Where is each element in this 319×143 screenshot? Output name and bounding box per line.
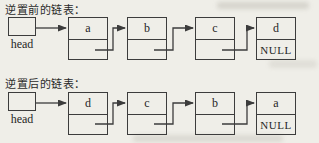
node-data-cell: c	[196, 18, 234, 40]
node-pointer-cell	[196, 115, 234, 134]
after-list-title: 逆置后的链表：	[5, 75, 86, 91]
node-before-2: b	[127, 17, 167, 60]
node-data-cell: d	[257, 18, 295, 40]
node-after-3: b	[195, 92, 235, 135]
node-after-1: d	[68, 92, 108, 135]
node-after-2: c	[127, 92, 167, 135]
head-label-after: head	[4, 112, 40, 127]
head-label-before: head	[4, 37, 40, 52]
before-list-title: 逆置前的链表：	[5, 1, 86, 17]
node-null-cell: NULL	[257, 115, 295, 134]
node-after-4: a NULL	[256, 92, 296, 135]
linked-list-reversal-diagram: 逆置前的链表： head a b c d NULL 逆置后的链表： head d…	[0, 0, 319, 143]
node-data-cell: a	[69, 18, 107, 40]
node-data-cell: b	[128, 18, 166, 40]
node-null-cell: NULL	[257, 40, 295, 59]
scan-artifact	[269, 60, 317, 68]
node-pointer-cell	[69, 115, 107, 134]
node-pointer-cell	[128, 115, 166, 134]
node-data-cell: a	[257, 93, 295, 115]
scan-artifact	[133, 135, 283, 142]
node-data-cell: d	[69, 93, 107, 115]
node-pointer-cell	[69, 40, 107, 59]
node-before-1: a	[68, 17, 108, 60]
node-pointer-cell	[128, 40, 166, 59]
scan-artifact	[217, 2, 309, 9]
head-pointer-box-after	[8, 92, 36, 111]
head-pointer-box-before	[8, 17, 36, 36]
node-before-3: c	[195, 17, 235, 60]
node-before-4: d NULL	[256, 17, 296, 60]
node-data-cell: b	[196, 93, 234, 115]
node-data-cell: c	[128, 93, 166, 115]
node-pointer-cell	[196, 40, 234, 59]
